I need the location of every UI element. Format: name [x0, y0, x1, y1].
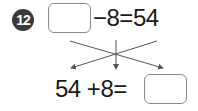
answer-box-bottom[interactable] — [144, 74, 187, 104]
equation-bottom-text: 54 +8= — [55, 74, 127, 104]
